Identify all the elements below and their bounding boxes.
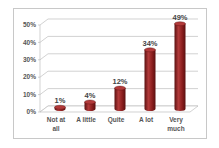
y-tick-label: 30% xyxy=(23,56,36,63)
bar xyxy=(115,86,126,111)
data-label: 4% xyxy=(85,91,96,100)
y-tick-label: 20% xyxy=(23,73,36,80)
category-label: A little xyxy=(76,116,96,123)
y-tick-label: 10% xyxy=(23,91,36,98)
y-tick-label: 50% xyxy=(23,21,36,28)
category-labels: Not atallA littleQuiteA lotVerymuch xyxy=(47,116,185,132)
y-tick-label: 0% xyxy=(27,108,37,115)
category-label: Not at xyxy=(47,116,66,123)
category-label: Quite xyxy=(108,116,125,124)
category-label: all xyxy=(52,125,59,132)
data-label: 49% xyxy=(172,13,187,22)
gridline xyxy=(40,36,198,42)
data-label: 12% xyxy=(112,77,127,86)
bar xyxy=(175,22,186,111)
bar-chart: 0%10%20%30%40%50% 1%4%12%34%49% Not atal… xyxy=(0,0,219,148)
y-tick-label: 40% xyxy=(23,39,36,46)
data-label: 1% xyxy=(55,96,66,105)
bar xyxy=(55,105,66,111)
category-label: much xyxy=(167,125,184,132)
category-label: Very xyxy=(169,116,183,124)
data-label: 34% xyxy=(142,39,157,48)
bars xyxy=(55,22,186,111)
bar xyxy=(85,100,96,111)
bar xyxy=(145,48,156,111)
gridline xyxy=(40,54,198,60)
y-axis-ticks: 0%10%20%30%40%50% xyxy=(23,21,36,115)
category-label: A lot xyxy=(139,116,154,123)
